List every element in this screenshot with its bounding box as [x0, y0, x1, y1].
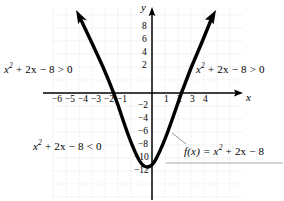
x-tick-label-3: 3: [190, 95, 195, 105]
y-axis-label: y: [141, 2, 146, 13]
y-tick-label-4: 4: [142, 48, 147, 58]
annotation-right-positive-rest: + 2x − 8 > 0: [205, 63, 265, 75]
y-tick-label--4: −4: [138, 114, 148, 124]
quadratic-inequality-figure: y x −6 −5 −4 −3 −2 −1 1 2 3 4 8 6 4 2 −2…: [0, 0, 284, 201]
y-tick-label-6: 6: [142, 35, 147, 45]
x-tick-label--3: −3: [91, 95, 101, 105]
x-tick-label--5: −5: [65, 95, 75, 105]
curve-function-label: f(x) = x2 + 2x − 8: [184, 144, 264, 157]
x-tick-label--6: −6: [52, 95, 62, 105]
y-tick-label--10: −10: [134, 153, 149, 163]
annotation-middle-negative-rest: + 2x − 8 < 0: [42, 140, 102, 152]
annotation-right-positive: x2 + 2x − 8 > 0: [196, 62, 265, 75]
x-axis-label: x: [246, 92, 251, 103]
annotation-middle-negative: x2 + 2x − 8 < 0: [33, 139, 102, 152]
y-tick-label--8: −8: [138, 140, 148, 150]
x-tick-label--4: −4: [78, 95, 88, 105]
y-tick-label--6: −6: [138, 127, 148, 137]
curve-function-label-rest: + 2x − 8: [223, 145, 265, 157]
annotation-left-positive: x2 + 2x − 8 > 0: [4, 62, 73, 75]
curve-function-label-prefix: f(x) = x: [184, 145, 219, 157]
x-tick-label--1: −1: [117, 95, 127, 105]
y-tick-label-8: 8: [142, 22, 147, 32]
y-tick-label-2: 2: [142, 61, 147, 71]
x-tick-label-4: 4: [203, 95, 208, 105]
annotation-left-positive-rest: + 2x − 8 > 0: [13, 63, 73, 75]
curve-label-leader: [172, 133, 186, 144]
x-tick-label-1: 1: [164, 95, 169, 105]
x-tick-label-2: 2: [177, 95, 182, 105]
y-tick-label--12: −12: [134, 166, 149, 176]
y-tick-label--2: −2: [138, 101, 148, 111]
x-tick-label--2: −2: [104, 95, 114, 105]
